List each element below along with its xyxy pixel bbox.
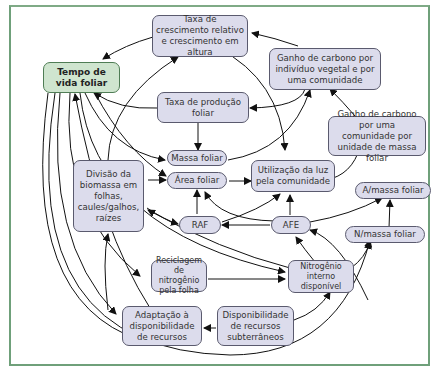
node-label: Tempo de vida foliar <box>47 67 116 89</box>
node-ganho-carbono-individuo: Ganho de carbono por indivíduo vegetal e… <box>269 48 381 90</box>
node-adaptacao: Adaptação à disponibilidade de recursos <box>122 306 202 346</box>
edge-afe-amassa <box>310 198 382 222</box>
node-nitrogenio-disponivel: Nitrogênio interno disponível <box>288 260 354 293</box>
node-label: A/massa foliar <box>362 185 423 196</box>
node-label: AFE <box>283 220 299 231</box>
edge-ganho-crescimento <box>252 33 298 46</box>
node-label: Taxa de crescimento relativo e crescimen… <box>156 14 244 58</box>
node-label: Reciclagem de nitrogênio pela folha <box>155 256 203 296</box>
node-area-foliar: Área foliar <box>167 172 227 189</box>
node-label: Ganho de carbono por indivíduo vegetal e… <box>273 53 377 86</box>
node-label: Nitrogênio interno disponível <box>292 262 350 292</box>
node-label: Disponibilidade de recursos subterrâneos <box>221 310 290 343</box>
node-disponibilidade: Disponibilidade de recursos subterrâneos <box>217 306 294 346</box>
node-divisao-biomassa: Divisão da biomassa em folhas, caules/ga… <box>73 160 144 232</box>
node-label: Divisão da biomassa em folhas, caules/ga… <box>77 169 140 224</box>
edge-tempo-massa <box>85 93 165 160</box>
node-n-massa-foliar: N/massa foliar <box>345 226 425 243</box>
edge-nitrogenio-afe <box>296 237 315 262</box>
edge-nitrogenio-nmassa <box>351 242 370 268</box>
edge-adaptacao-divisao <box>105 234 108 310</box>
node-utilizacao-luz: Utilização da luz pela comunidade <box>251 160 335 192</box>
edge-raf-luz <box>222 194 280 222</box>
node-label: Ganho de carbono por uma comunidade por … <box>332 109 422 164</box>
node-label: Taxa de produção foliar <box>161 97 245 119</box>
node-label: Utilização da luz pela comunidade <box>255 165 331 187</box>
edge-ganho-producao <box>250 89 305 108</box>
edge-disp-nitrogenio <box>294 292 330 320</box>
node-taxa-producao-foliar: Taxa de produção foliar <box>157 92 249 123</box>
node-ganho-carbono-massa: Ganho de carbono por uma comunidade por … <box>328 116 426 156</box>
node-taxa-crescimento: Taxa de crescimento relativo e crescimen… <box>152 15 248 57</box>
node-label: Massa foliar <box>171 153 223 164</box>
node-label: Área foliar <box>175 175 219 186</box>
node-afe: AFE <box>271 216 311 234</box>
node-a-massa-foliar: A/massa foliar <box>355 182 431 199</box>
node-label: Adaptação à disponibilidade de recursos <box>126 310 198 343</box>
edge-crescimento-tempo <box>103 37 153 59</box>
node-tempo-vida-foliar: Tempo de vida foliar <box>43 62 120 93</box>
node-label: N/massa foliar <box>354 229 416 240</box>
node-massa-foliar: Massa foliar <box>167 150 227 166</box>
node-reciclagem-nitrogenio: Reciclagem de nitrogênio pela folha <box>151 260 207 292</box>
node-raf: RAF <box>179 216 221 234</box>
edge-nmassa-amassa <box>389 200 390 228</box>
node-label: RAF <box>192 220 208 231</box>
